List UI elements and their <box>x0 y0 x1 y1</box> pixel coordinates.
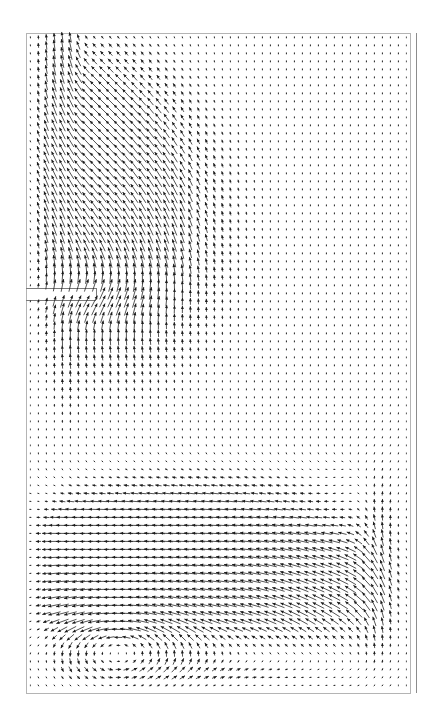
velocity-vector-figure: Computed velocity vector field in a rect… <box>0 0 427 716</box>
vector-field-plot <box>0 0 427 716</box>
